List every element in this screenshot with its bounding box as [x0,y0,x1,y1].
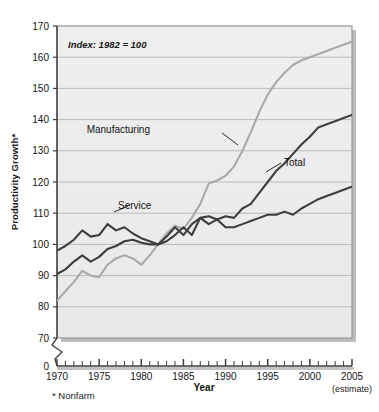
y-axis-tick-labels: 0708090100110120130140150160170 [32,21,49,373]
x-tick-label-1990: 1990 [214,371,237,382]
estimate-note: (estimate) [332,384,372,394]
y-tick-label-110: 110 [33,208,49,219]
y-axis-ticks [53,26,57,338]
productivity-growth-chart: 0708090100110120130140150160170 19701975… [0,0,379,412]
x-tick-label-1985: 1985 [172,371,195,382]
y-tick-label-120: 120 [32,177,49,188]
x-tick-label-1980: 1980 [130,371,153,382]
chart-svg: 0708090100110120130140150160170 19701975… [0,0,379,412]
y-tick-label-100: 100 [32,239,49,250]
x-tick-label-1975: 1975 [88,371,111,382]
total-series-label: Total [284,157,305,168]
footnote: * Nonfarm [52,390,95,401]
service-series-label: Service [118,200,152,211]
y-axis-title: Productivity Growth* [9,134,20,231]
index-annotation: Index: 1982 = 100 [68,39,147,50]
y-tick-label-140: 140 [32,114,49,125]
y-tick-label-150: 150 [32,83,49,94]
y-tick-label-160: 160 [32,52,49,63]
x-axis-shadow [57,367,354,370]
y-tick-label-80: 80 [38,301,50,312]
y-tick-label-170: 170 [32,21,49,32]
y-tick-label-90: 90 [38,270,50,281]
x-tick-label-2005: 2005 [341,371,364,382]
manufacturing-series-label: Manufacturing [87,124,150,135]
y-tick-label-130: 130 [32,145,49,156]
x-tick-label-2000: 2000 [299,371,322,382]
x-axis-title: Year [193,382,214,393]
x-axis-tick-labels: 19701975198019851990199520002005 [46,371,364,382]
x-axis-major-ticks [57,359,352,366]
x-tick-label-1970: 1970 [46,371,69,382]
x-tick-label-1995: 1995 [257,371,280,382]
y-tick-label-70: 70 [38,333,50,344]
